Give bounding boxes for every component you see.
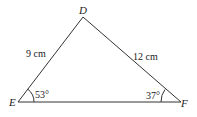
side-label-df: 12 cm bbox=[133, 51, 158, 62]
side-label-de: 9 cm bbox=[26, 48, 46, 59]
vertex-label-d: D bbox=[78, 4, 87, 16]
angle-arc-e bbox=[28, 89, 34, 102]
angle-arc-f bbox=[161, 90, 165, 103]
angle-label-f: 37° bbox=[146, 90, 160, 101]
angle-label-e: 53° bbox=[35, 89, 49, 100]
vertex-label-f: F bbox=[180, 97, 188, 109]
triangle-diagram: D E F 9 cm 12 cm 53° 37° bbox=[0, 0, 197, 117]
vertex-label-e: E bbox=[8, 96, 16, 108]
